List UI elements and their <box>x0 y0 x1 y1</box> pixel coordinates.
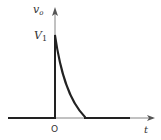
peak-label: V1 <box>34 29 47 43</box>
origin-label: O <box>51 124 58 134</box>
x-axis-label: t <box>144 124 149 135</box>
y-axis-label: vo <box>33 3 43 17</box>
waveform-diagram: vo V1 O t <box>0 0 161 140</box>
signal-curve <box>8 35 130 118</box>
